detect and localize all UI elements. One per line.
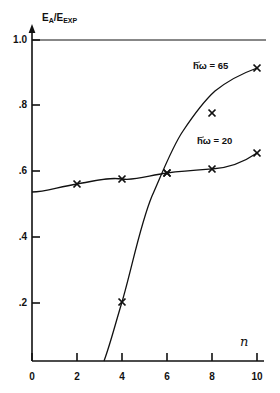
plot-canvas xyxy=(0,0,280,393)
x-tick-label-4: 4 xyxy=(112,371,132,382)
y-tick-label-06: .6 xyxy=(3,165,27,176)
y-tick-label-1: 1.0 xyxy=(3,34,27,45)
annotation-value-65: = 65 xyxy=(209,60,228,71)
annotation-hbar-omega-20: hω = 20 xyxy=(197,135,232,146)
x-tick-label-10: 10 xyxy=(247,371,267,382)
x-tick-marks xyxy=(32,353,257,361)
y-axis-title-numerator-symbol: E xyxy=(42,12,49,23)
y-tick-label-04: .4 xyxy=(3,231,27,242)
y-tick-label-02: .2 xyxy=(3,297,27,308)
y-axis-title-denominator-subscript: EXP xyxy=(63,17,77,24)
markers-hbar-omega-20 xyxy=(74,150,261,188)
hbar-glyph-20: h xyxy=(197,135,203,146)
x-tick-label-2: 2 xyxy=(67,371,87,382)
data-point xyxy=(119,299,126,306)
y-tick-marks xyxy=(32,40,40,303)
y-tick-label-08: .8 xyxy=(3,99,27,110)
markers-hbar-omega-65 xyxy=(119,65,261,306)
x-tick-label-0: 0 xyxy=(22,371,42,382)
hbar-glyph-65: h xyxy=(193,60,199,71)
curve-hbar-omega-65 xyxy=(104,68,257,361)
y-axis-arrow xyxy=(29,24,36,33)
x-axis-title: n xyxy=(240,334,248,349)
data-point xyxy=(254,65,261,72)
annotation-value-20: = 20 xyxy=(213,135,232,146)
data-point xyxy=(254,150,261,157)
x-tick-label-8: 8 xyxy=(202,371,222,382)
curve-hbar-omega-20 xyxy=(32,153,257,192)
chart-figure: EA/EEXP n 1.0 .8 .6 .4 .2 0 2 4 6 8 10 h… xyxy=(0,0,280,393)
data-point xyxy=(209,110,216,117)
x-tick-label-6: 6 xyxy=(157,371,177,382)
annotation-hbar-omega-65: hω = 65 xyxy=(193,60,228,71)
y-axis-title: EA/EEXP xyxy=(42,12,77,24)
